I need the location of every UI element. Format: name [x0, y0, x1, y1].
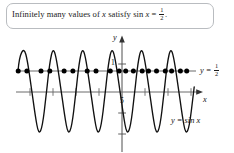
- y-tick-label-1: 1: [111, 58, 115, 67]
- graph-svg: [0, 0, 234, 153]
- half-line-fraction-denominator: 2: [214, 71, 219, 78]
- half-line-fraction: 12: [214, 63, 219, 77]
- half-line-label: y = 12: [200, 63, 220, 77]
- intersection-dot: [108, 69, 113, 74]
- intersection-dot: [24, 69, 29, 74]
- intersection-dot: [94, 69, 99, 74]
- intersection-dot: [178, 69, 183, 74]
- intersection-dot: [154, 69, 159, 74]
- intersection-dot: [39, 69, 44, 74]
- x-axis-arrow-icon: [196, 89, 203, 94]
- intersection-dot: [117, 69, 122, 74]
- intersection-dot: [123, 69, 128, 74]
- x-tick-label-5: 5: [120, 96, 124, 105]
- figure-container: Infinitely many values of x satisfy sin …: [0, 0, 234, 153]
- intersection-dot: [140, 69, 145, 74]
- intersection-dot: [62, 69, 67, 74]
- y-axis-label: y: [113, 33, 117, 42]
- intersection-dot: [146, 69, 151, 74]
- x-axis-label: x: [203, 95, 207, 104]
- intersection-dot: [169, 69, 174, 74]
- intersection-dot: [163, 69, 168, 74]
- intersection-dot: [131, 69, 136, 74]
- y-axis-arrow-icon: [119, 36, 125, 43]
- intersection-dot: [70, 69, 75, 74]
- intersection-dot: [85, 69, 90, 74]
- curve-label: y = sin x: [171, 116, 200, 125]
- intersection-dot: [16, 69, 21, 74]
- intersection-dot: [184, 69, 189, 74]
- intersection-dot: [47, 69, 52, 74]
- half-line-label-prefix: y =: [200, 66, 214, 75]
